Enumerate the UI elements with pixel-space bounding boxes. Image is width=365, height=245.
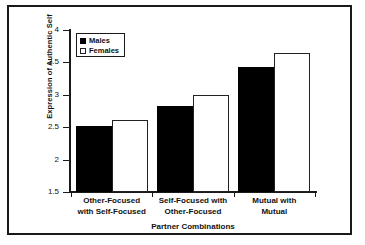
y-axis-title: Expression of Authentic Self xyxy=(45,1,54,133)
bar-males-group-3 xyxy=(238,67,274,192)
legend-swatch-males-icon xyxy=(80,38,86,44)
legend-swatch-females-icon xyxy=(80,48,86,54)
y-tick xyxy=(63,62,70,63)
y-tick xyxy=(63,30,70,31)
bar-females-group-2 xyxy=(193,95,229,192)
x-tick xyxy=(315,191,316,197)
category-label-line: Mutual with xyxy=(234,196,315,207)
y-tick xyxy=(63,127,70,128)
y-tick-label: 2.5 xyxy=(48,123,59,131)
legend-item-females: Females xyxy=(80,46,121,55)
legend-label-males: Males xyxy=(89,37,110,45)
legend: Males Females xyxy=(76,33,125,57)
y-tick-label: 1.5 xyxy=(48,188,59,196)
category-label-line: Self-Focused with xyxy=(152,196,233,207)
category-label-2: Self-Focused withOther-Focused xyxy=(152,196,233,217)
y-tick xyxy=(63,95,70,96)
legend-item-males: Males xyxy=(80,36,121,45)
bar-females-group-1 xyxy=(112,120,148,192)
y-tick-label: 3 xyxy=(55,91,59,99)
y-tick xyxy=(63,192,70,193)
bar-males-group-2 xyxy=(157,106,193,192)
y-tick-label: 4 xyxy=(55,26,59,34)
figure-canvas: Expression of Authentic Self Partner Com… xyxy=(0,0,365,245)
category-label-line: with Self-Focused xyxy=(71,207,152,218)
bar-females-group-3 xyxy=(274,53,310,192)
x-axis-title: Partner Combinations xyxy=(71,222,315,231)
legend-label-females: Females xyxy=(89,47,119,55)
category-label-line: Other-Focused xyxy=(71,196,152,207)
category-label-1: Other-Focusedwith Self-Focused xyxy=(71,196,152,217)
y-tick-label: 2 xyxy=(55,156,59,164)
bar-males-group-1 xyxy=(76,126,112,192)
category-label-line: Other-Focused xyxy=(152,207,233,218)
y-tick-label: 3.5 xyxy=(48,58,59,66)
y-tick xyxy=(63,160,70,161)
category-label-3: Mutual withMutual xyxy=(234,196,315,217)
category-label-line: Mutual xyxy=(234,207,315,218)
